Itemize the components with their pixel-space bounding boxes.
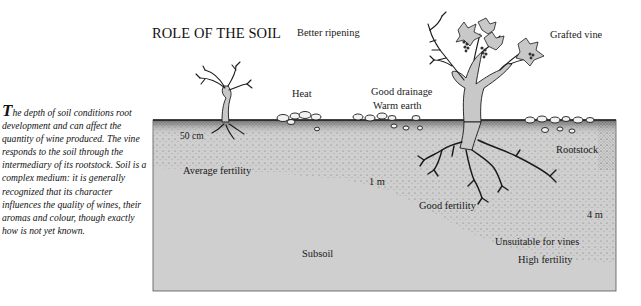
- label-subsoil: Subsoil: [302, 248, 333, 259]
- label-good-drainage: Good drainage: [371, 86, 432, 97]
- label-rootstock: Rootstock: [556, 144, 598, 155]
- label-depth-50cm: 50 cm: [180, 130, 204, 141]
- label-average-fertility: Average fertility: [183, 165, 251, 176]
- label-warm-earth: Warm earth: [373, 100, 422, 111]
- label-heat: Heat: [292, 88, 312, 99]
- label-unsuitable-for-vines: Unsuitable for vines: [495, 236, 579, 247]
- label-high-fertility: High fertility: [518, 254, 573, 265]
- label-depth-4m: 4 m: [587, 209, 603, 220]
- label-depth-1m: 1 m: [369, 176, 385, 187]
- soil-section: [153, 120, 616, 291]
- label-grafted-vine: Grafted vine: [550, 29, 602, 40]
- diagram-title: ROLE OF THE SOIL: [152, 25, 281, 42]
- label-good-fertility: Good fertility: [419, 200, 476, 211]
- label-better-ripening: Better ripening: [297, 27, 360, 38]
